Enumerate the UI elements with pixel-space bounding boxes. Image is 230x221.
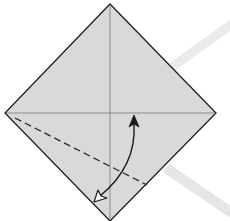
origami-diagram bbox=[0, 0, 230, 221]
background-band-lower bbox=[166, 168, 230, 213]
paper-square bbox=[5, 4, 216, 221]
background-band-upper bbox=[172, 24, 230, 67]
